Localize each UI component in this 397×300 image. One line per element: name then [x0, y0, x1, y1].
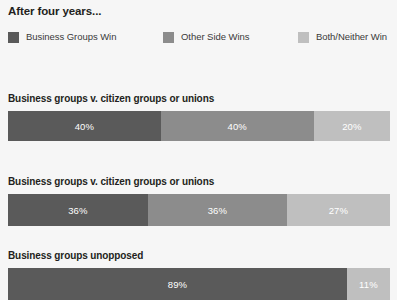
bar-label-1: Business groups v. citizen groups or uni…	[8, 93, 390, 105]
bar-3-segment-both-neither-win[interactable]: 11%	[347, 268, 390, 300]
legend-item-both-neither-win[interactable]: Both/Neither Win	[298, 30, 387, 44]
bar-group-3: Business groups unopposed 89% 11%	[8, 250, 390, 300]
bar-track-2: 36% 36% 27%	[8, 194, 390, 226]
bar-2-segment-business-groups-win[interactable]: 36%	[8, 194, 148, 226]
bar-label-3: Business groups unopposed	[8, 250, 390, 262]
bar-2-segment-other-side-wins[interactable]: 36%	[148, 194, 287, 226]
bar-2-value-both-neither-win: 27%	[329, 205, 348, 216]
bar-group-1: Business groups v. citizen groups or uni…	[8, 93, 390, 141]
bar-1-value-other-side-wins: 40%	[228, 121, 247, 132]
bar-1-segment-business-groups-win[interactable]: 40%	[8, 111, 161, 141]
bar-2-segment-both-neither-win[interactable]: 27%	[287, 194, 390, 226]
bar-2-value-other-side-wins: 36%	[208, 205, 227, 216]
bar-1-segment-other-side-wins[interactable]: 40%	[161, 111, 314, 141]
bar-2-value-business-groups-win: 36%	[68, 205, 87, 216]
bar-3-value-business-groups-win: 89%	[168, 279, 187, 290]
legend-swatch-both-neither-win	[298, 32, 309, 43]
bar-track-1: 40% 40% 20%	[8, 111, 390, 141]
legend-label-both-neither-win: Both/Neither Win	[316, 30, 387, 44]
bar-1-value-business-groups-win: 40%	[75, 121, 94, 132]
bar-3-segment-business-groups-win[interactable]: 89%	[8, 268, 347, 300]
legend-item-other-side-wins[interactable]: Other Side Wins	[163, 30, 249, 44]
page-title: After four years...	[8, 5, 101, 17]
legend-item-business-groups-win[interactable]: Business Groups Win	[8, 30, 116, 44]
bar-track-3: 89% 11%	[8, 268, 390, 300]
bar-3-value-both-neither-win: 11%	[359, 279, 378, 290]
chart-legend: Business Groups Win Other Side Wins Both…	[8, 30, 393, 44]
legend-label-business-groups-win: Business Groups Win	[26, 30, 116, 44]
bar-1-segment-both-neither-win[interactable]: 20%	[314, 111, 390, 141]
bar-1-value-both-neither-win: 20%	[342, 121, 361, 132]
legend-swatch-other-side-wins	[163, 32, 174, 43]
bar-group-2: Business groups v. citizen groups or uni…	[8, 176, 390, 226]
bar-label-2: Business groups v. citizen groups or uni…	[8, 176, 390, 188]
legend-label-other-side-wins: Other Side Wins	[181, 30, 249, 44]
legend-swatch-business-groups-win	[8, 32, 19, 43]
